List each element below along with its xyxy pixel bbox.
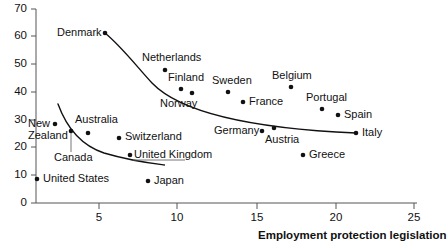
point-belgium <box>289 85 294 90</box>
label-australia: Australia <box>75 114 118 126</box>
label-austria: Austria <box>265 134 299 146</box>
label-canada: Canada <box>54 152 93 164</box>
y-tick-20: 20 <box>2 141 27 153</box>
label-greece: Greece <box>309 149 345 161</box>
point-greece <box>301 153 306 158</box>
point-canada <box>69 129 74 134</box>
y-tick-30: 30 <box>2 114 27 126</box>
label-france: France <box>249 96 283 108</box>
label-belgium: Belgium <box>272 70 312 82</box>
point-switzerland <box>117 136 122 141</box>
point-united-kingdom <box>128 153 133 158</box>
label-spain: Spain <box>344 109 372 121</box>
label-united-kingdom: United Kingdom <box>134 149 212 161</box>
x-axis-title: Employment protection legislation <box>258 229 447 241</box>
y-axis-ticks <box>31 9 36 203</box>
y-tick-50: 50 <box>2 58 27 70</box>
point-australia <box>86 131 91 136</box>
label-italy: Italy <box>362 127 382 139</box>
point-united-states <box>35 177 40 182</box>
label-norway: Norway <box>160 98 197 110</box>
label-netherlands: Netherlands <box>142 52 201 64</box>
y-tick-40: 40 <box>2 86 27 98</box>
label-new-zealand-line1: New <box>28 117 50 129</box>
label-portugal: Portugal <box>306 92 347 104</box>
label-finland: Finland <box>168 72 204 84</box>
x-tick-5: 5 <box>89 212 109 224</box>
point-denmark <box>103 31 108 36</box>
label-germany: Germany <box>214 125 259 137</box>
label-switzerland: Switzerland <box>125 131 182 143</box>
point-france <box>241 100 246 105</box>
point-spain <box>336 113 341 118</box>
x-tick-15: 15 <box>247 212 267 224</box>
label-sweden: Sweden <box>212 75 252 87</box>
label-denmark: Denmark <box>57 27 102 39</box>
point-germany <box>260 129 265 134</box>
y-tick-10: 10 <box>2 169 27 181</box>
label-japan: Japan <box>154 175 184 187</box>
point-japan <box>146 179 151 184</box>
x-tick-20: 20 <box>326 212 346 224</box>
y-tick-70: 70 <box>2 3 27 15</box>
label-united-states: United States <box>43 173 109 185</box>
x-tick-10: 10 <box>167 212 187 224</box>
label-new-zealand: New Zealand <box>28 118 68 142</box>
point-netherlands <box>163 68 168 73</box>
point-sweden <box>226 90 231 95</box>
x-tick-25: 25 <box>404 212 424 224</box>
y-tick-60: 60 <box>2 30 27 42</box>
point-italy <box>354 131 359 136</box>
point-austria <box>272 126 277 131</box>
point-finland <box>179 87 184 92</box>
point-portugal <box>320 107 325 112</box>
label-new-zealand-line2: Zealand <box>28 129 68 141</box>
y-tick-0: 0 <box>2 197 27 209</box>
point-norway <box>190 91 195 96</box>
x-axis-ticks <box>99 203 414 209</box>
